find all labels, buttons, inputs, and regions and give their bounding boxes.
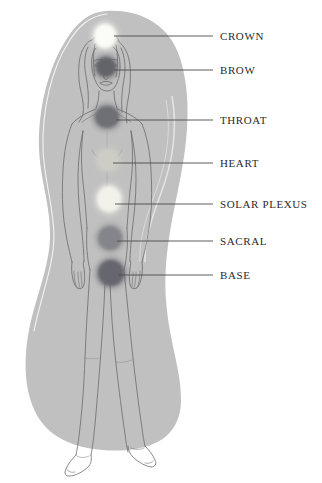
chakra-dot-solar-plexus[interactable] xyxy=(97,186,121,212)
chakra-label-solar-plexus[interactable]: SOLAR PLEXUS xyxy=(220,199,308,210)
chakra-dot-brow[interactable] xyxy=(96,57,116,77)
chakra-dot-base[interactable] xyxy=(98,260,124,286)
foot-left-toes xyxy=(67,470,75,472)
chakra-label-brow[interactable]: BROW xyxy=(220,65,255,76)
foot-right-toes xyxy=(145,461,153,463)
chakra-diagram-canvas: CROWNBROWTHROATHEARTSOLAR PLEXUSSACRALBA… xyxy=(0,0,322,483)
chakra-label-base[interactable]: BASE xyxy=(220,270,251,281)
chakra-dot-sacral[interactable] xyxy=(98,226,122,250)
foot-left-ankle xyxy=(77,456,89,458)
chakra-dot-heart[interactable] xyxy=(97,149,119,171)
figure-illustration xyxy=(0,0,322,483)
chakra-label-sacral[interactable]: SACRAL xyxy=(220,236,267,247)
chakra-dot-throat[interactable] xyxy=(95,106,119,128)
chakra-label-throat[interactable]: THROAT xyxy=(220,115,267,126)
foot-left xyxy=(65,455,91,476)
chakra-dot-crown[interactable] xyxy=(94,24,116,48)
chakra-label-heart[interactable]: HEART xyxy=(220,158,259,169)
chakra-label-crown[interactable]: CROWN xyxy=(220,31,264,42)
